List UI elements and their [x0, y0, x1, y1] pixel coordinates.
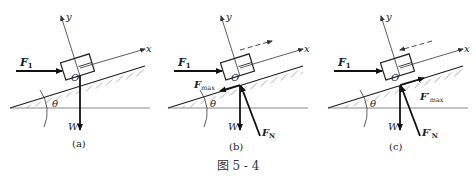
angle-label: θ — [210, 98, 216, 109]
origin-label: O — [231, 72, 239, 83]
applied-force-label: F1 — [337, 56, 351, 70]
weight-label: W — [388, 121, 399, 132]
normal-force-arrow — [401, 86, 420, 136]
weight-label: W — [228, 121, 239, 132]
normal-force-label: FN — [261, 127, 275, 140]
panel-label: (b) — [229, 141, 243, 152]
x-axis-label: x — [464, 43, 470, 54]
y-axis-label: y — [225, 11, 232, 22]
origin-label: O — [71, 72, 79, 83]
friction-label: Fmax — [193, 79, 215, 92]
panel-a: x y O F1 W θ (a) — [10, 11, 152, 149]
angle-label: θ — [370, 98, 376, 109]
x-axis-label: x — [146, 43, 152, 54]
panel-b: x y O F1 Fmax W FN θ (b) — [168, 11, 310, 152]
angle-label: θ — [52, 98, 58, 109]
applied-force-label: F1 — [19, 56, 33, 70]
panel-c: x y O F1 F′max W F′N θ (c) — [328, 11, 470, 152]
x-axis-label: x — [304, 43, 310, 54]
inclined-plane-diagrams: x y O F1 W θ (a) x y O F1 Fmax — [0, 0, 476, 182]
applied-force-label: F1 — [177, 56, 191, 70]
panel-label: (a) — [72, 138, 86, 149]
normal-force-arrow — [241, 86, 260, 136]
normal-force-label: F′N — [421, 127, 438, 140]
origin-label: O — [391, 72, 399, 83]
motion-tendency-arrow — [240, 41, 272, 50]
panel-label: (c) — [389, 141, 403, 152]
friction-label: F′max — [419, 91, 444, 104]
y-axis-label: y — [385, 11, 392, 22]
y-axis-label: y — [65, 11, 72, 22]
motion-tendency-arrow — [400, 41, 432, 50]
weight-label: W — [68, 121, 79, 132]
figure-caption: 图 5 - 4 — [0, 156, 476, 173]
